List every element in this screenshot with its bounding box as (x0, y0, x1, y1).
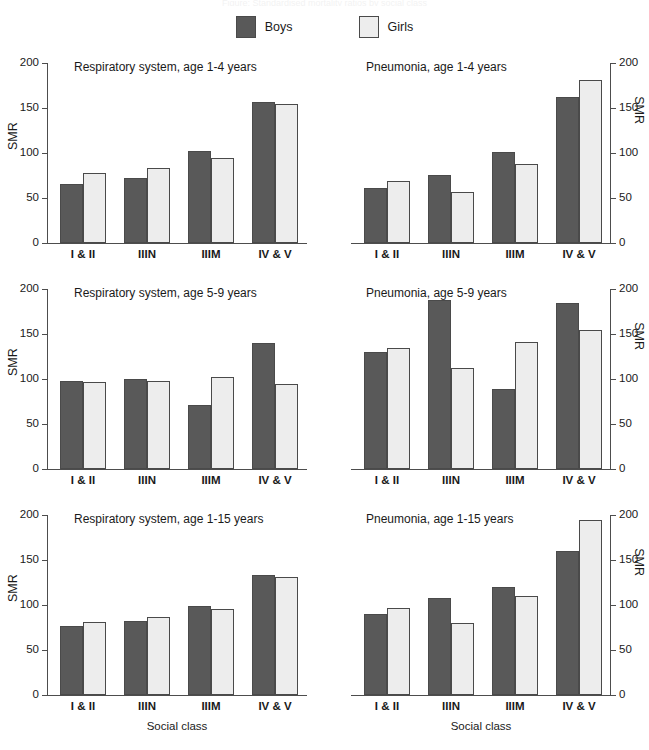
bar-girls (451, 623, 474, 695)
y-tick-label: 100 (619, 599, 638, 611)
y-tick-label: 0 (33, 237, 39, 249)
bar-girls (275, 384, 298, 470)
x-axis-line (47, 469, 307, 470)
y-tick-label: 0 (619, 689, 625, 701)
x-category-label: I & II (53, 248, 113, 260)
x-axis-line (351, 243, 611, 244)
chart-legend: Boys Girls (0, 14, 649, 40)
x-category-label: IIIM (181, 474, 241, 486)
y-tick (42, 605, 47, 606)
y-tick-label: 200 (619, 57, 638, 69)
chart-panel-grid: Respiratory system, age 1-4 years0501001… (0, 46, 649, 750)
chart-panel-pneumonia-1-4: Pneumonia, age 1-4 years050100150200I & … (324, 46, 648, 271)
bar-girls (579, 80, 602, 243)
y-axis-title: SMR (632, 96, 646, 124)
chart-panel-respiratory-1-15: Respiratory system, age 1-15 years050100… (0, 498, 324, 723)
legend-entry-girls: Girls (359, 16, 414, 38)
y-tick-label: 150 (20, 554, 39, 566)
bar-boys (556, 551, 579, 695)
y-axis-line (47, 289, 48, 469)
y-tick (42, 153, 47, 154)
bar-girls (147, 617, 170, 695)
cut-off-title: Figure: Standardised mortality ratios by… (0, 0, 649, 6)
bar-girls (147, 381, 170, 469)
bar-group (186, 515, 236, 695)
y-axis-line (47, 515, 48, 695)
bar-group (122, 63, 172, 243)
y-tick-label: 50 (26, 418, 39, 430)
x-category-label: IV & V (245, 700, 305, 712)
bar-boys (556, 97, 579, 243)
x-category-label: I & II (53, 700, 113, 712)
bar-group (58, 515, 108, 695)
bar-boys (492, 389, 515, 469)
bar-group (362, 63, 412, 243)
legend-swatch-boys-icon (236, 16, 256, 38)
bar-boys (492, 587, 515, 695)
y-tick (611, 198, 616, 199)
bar-girls (275, 577, 298, 695)
x-category-label: IIIM (485, 700, 545, 712)
y-tick-label: 100 (20, 599, 39, 611)
y-tick (42, 289, 47, 290)
bar-group (250, 515, 300, 695)
y-tick-label: 50 (619, 644, 632, 656)
bar-group (186, 289, 236, 469)
y-tick (611, 695, 616, 696)
bar-girls (211, 609, 234, 695)
x-category-label: IIIM (485, 248, 545, 260)
x-category-label: IIIN (421, 474, 481, 486)
plot-area: 050100150200I & IIIIINIIIMIV & V (48, 289, 306, 469)
bar-boys (428, 598, 451, 695)
x-category-label: IV & V (245, 474, 305, 486)
bar-group (122, 515, 172, 695)
y-axis-title: SMR (632, 548, 646, 576)
bar-group (362, 515, 412, 695)
y-axis-line (47, 63, 48, 243)
bar-boys (124, 621, 147, 695)
bar-girls (147, 168, 170, 243)
chart-panel-pneumonia-1-15: Pneumonia, age 1-15 years050100150200I &… (324, 498, 648, 723)
y-tick (611, 515, 616, 516)
y-tick (611, 63, 616, 64)
bar-group (426, 63, 476, 243)
x-category-label: IV & V (549, 474, 609, 486)
bar-boys (364, 614, 387, 695)
bar-girls (579, 520, 602, 695)
bar-girls (83, 382, 106, 469)
y-tick (611, 289, 616, 290)
bar-boys (428, 300, 451, 469)
legend-swatch-girls-icon (359, 16, 379, 38)
bar-group (58, 289, 108, 469)
y-tick (42, 469, 47, 470)
bar-boys (188, 151, 211, 243)
plot-area: 050100150200I & IIIIINIIIMIV & V (352, 289, 610, 469)
y-tick-label: 100 (20, 147, 39, 159)
x-category-label: IIIN (421, 700, 481, 712)
chart-panel-pneumonia-5-9: Pneumonia, age 5-9 years050100150200I & … (324, 272, 648, 497)
bar-girls (211, 377, 234, 469)
plot-area: 050100150200I & IIIIINIIIMIV & V (48, 63, 306, 243)
bar-girls (387, 181, 410, 243)
bar-boys (364, 188, 387, 243)
bar-group (122, 289, 172, 469)
y-tick (42, 63, 47, 64)
y-tick (611, 469, 616, 470)
y-axis-title: SMR (6, 348, 20, 376)
bar-girls (451, 368, 474, 469)
y-tick (611, 108, 616, 109)
bar-girls (515, 164, 538, 243)
bar-boys (60, 626, 83, 695)
y-tick-label: 0 (33, 689, 39, 701)
y-tick-label: 0 (33, 463, 39, 475)
y-tick-label: 50 (26, 192, 39, 204)
x-axis-title: Social class (352, 720, 610, 732)
y-tick-label: 150 (20, 102, 39, 114)
bar-girls (275, 104, 298, 244)
bar-boys (492, 152, 515, 243)
bar-group (490, 515, 540, 695)
bar-group (362, 289, 412, 469)
y-tick (42, 560, 47, 561)
x-category-label: IIIM (181, 248, 241, 260)
y-tick (42, 695, 47, 696)
